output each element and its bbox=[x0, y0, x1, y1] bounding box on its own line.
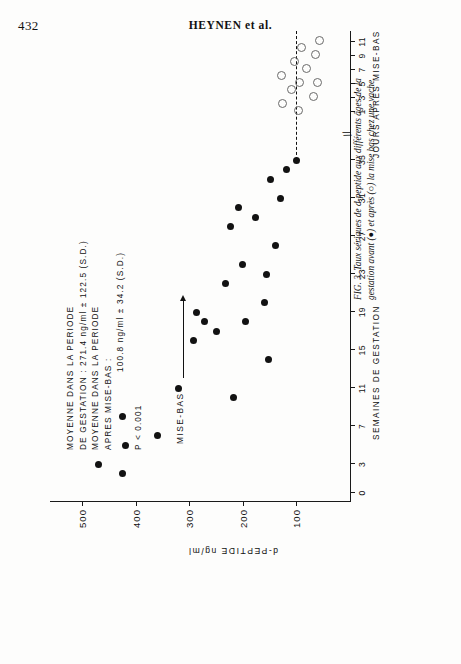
y-axis-title: d-PEPTIDE ng/ml bbox=[188, 546, 278, 556]
figure-caption: FIG. 3. Taux sériques de d-peptide aux d… bbox=[352, 50, 378, 300]
x-axis-tick-week bbox=[350, 349, 355, 350]
data-point-filled bbox=[277, 195, 284, 202]
parturition-arrow-head bbox=[180, 295, 186, 301]
data-point-filled bbox=[227, 223, 234, 230]
y-axis-tick-label: 500 bbox=[77, 509, 88, 547]
data-point-filled bbox=[242, 318, 249, 325]
data-point-filled bbox=[230, 394, 237, 401]
data-point-filled bbox=[261, 299, 268, 306]
y-axis-tick-label: 200 bbox=[237, 509, 248, 547]
x-axis-tick-label-week: 11 bbox=[357, 384, 367, 394]
x-axis-tick-label-week: 7 bbox=[357, 424, 367, 429]
data-point-open bbox=[295, 79, 304, 88]
data-point-filled bbox=[263, 271, 270, 278]
data-point-open bbox=[297, 44, 306, 53]
data-point-filled bbox=[235, 204, 242, 211]
data-point-filled bbox=[293, 157, 300, 164]
y-axis-tick-label: 300 bbox=[184, 509, 195, 547]
y-axis-tick bbox=[243, 501, 244, 506]
data-point-filled bbox=[267, 176, 274, 183]
data-point-filled bbox=[265, 356, 272, 363]
data-point-open bbox=[294, 107, 303, 116]
data-point-filled bbox=[154, 432, 161, 439]
data-point-filled bbox=[175, 385, 182, 392]
x-axis-tick-week bbox=[350, 463, 355, 464]
caption-text: Taux sériques de d-peptide aux différent… bbox=[353, 78, 376, 300]
data-point-filled bbox=[239, 261, 246, 268]
journal-page: 432 HEYNEN et al. MOYENNE DANS LA PERIOD… bbox=[0, 0, 461, 664]
data-point-filled bbox=[190, 337, 197, 344]
parturition-arrow-shaft bbox=[183, 300, 184, 378]
data-point-filled bbox=[272, 242, 279, 249]
scatter-plot-area: 100200300400500037111519232731351357911/… bbox=[50, 31, 351, 502]
data-point-filled bbox=[222, 280, 229, 287]
data-point-filled bbox=[193, 309, 200, 316]
data-point-filled bbox=[252, 214, 259, 221]
parturition-label: MISE-BAS bbox=[175, 392, 185, 444]
data-point-open bbox=[309, 93, 318, 102]
x-axis-tick-week bbox=[350, 387, 355, 388]
data-point-open bbox=[278, 100, 287, 109]
data-point-open bbox=[277, 72, 286, 81]
data-point-open bbox=[287, 86, 296, 95]
data-point-filled bbox=[119, 413, 126, 420]
y-axis-tick bbox=[296, 501, 297, 506]
x-axis-tick-label-week: 19 bbox=[357, 307, 367, 317]
x-axis-tick-week bbox=[350, 425, 355, 426]
data-point-filled bbox=[213, 328, 220, 335]
y-axis-tick-label: 100 bbox=[291, 509, 302, 547]
y-axis-tick bbox=[136, 501, 137, 506]
data-point-filled bbox=[283, 166, 290, 173]
data-point-open bbox=[311, 51, 320, 60]
data-point-filled bbox=[201, 318, 208, 325]
x-axis-tick-label-week: 0 bbox=[357, 490, 367, 495]
x-axis-tick-label-day: 11 bbox=[357, 37, 367, 47]
x-axis-tick-week bbox=[350, 311, 355, 312]
x-axis-tick-day bbox=[350, 41, 355, 42]
x-axis-title-weeks: SEMAINES DE GESTATION bbox=[372, 305, 381, 440]
data-point-open bbox=[302, 65, 311, 74]
data-point-open bbox=[313, 79, 322, 88]
x-axis-tick-label-week: 3 bbox=[357, 462, 367, 467]
data-point-filled bbox=[119, 470, 126, 477]
caption-number: FIG. 3. bbox=[353, 273, 363, 300]
data-point-filled bbox=[122, 442, 129, 449]
y-axis-tick bbox=[82, 501, 83, 506]
x-axis-tick-label-week: 15 bbox=[357, 345, 367, 355]
y-axis-tick bbox=[189, 501, 190, 506]
data-point-filled bbox=[95, 461, 102, 468]
y-axis-tick-label: 400 bbox=[130, 509, 141, 547]
data-point-open bbox=[315, 37, 324, 46]
x-axis-tick-week bbox=[350, 492, 355, 493]
